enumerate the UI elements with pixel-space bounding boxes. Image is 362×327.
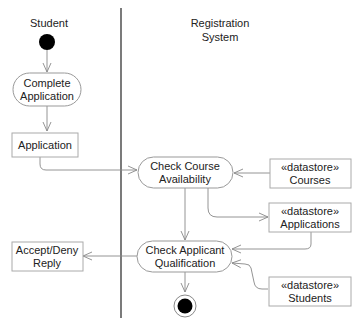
svg-text:Application: Application xyxy=(20,90,74,102)
svg-text:Complete: Complete xyxy=(23,77,70,89)
initial-node xyxy=(39,34,55,50)
svg-text:Qualification: Qualification xyxy=(155,257,216,269)
edge-students-to-check-applicant xyxy=(232,263,268,289)
svg-text:Students: Students xyxy=(288,292,332,304)
svg-text:Check Applicant: Check Applicant xyxy=(146,244,225,256)
svg-text:«datastore»: «datastore» xyxy=(281,205,339,217)
svg-text:Accept/Deny: Accept/Deny xyxy=(16,244,79,256)
svg-text:Check Course: Check Course xyxy=(150,160,220,172)
svg-text:Applications: Applications xyxy=(280,218,340,230)
lane-label-registration: Registration xyxy=(191,17,250,29)
action-check-course-availability: Check Course Availability xyxy=(138,157,233,188)
svg-text:Availability: Availability xyxy=(159,173,211,185)
svg-text:Application: Application xyxy=(18,139,72,151)
object-accept-deny-reply: Accept/Deny Reply xyxy=(12,242,83,271)
object-application: Application xyxy=(12,133,78,157)
svg-text:Courses: Courses xyxy=(290,174,331,186)
svg-text:«datastore»: «datastore» xyxy=(281,279,339,291)
activity-final-node xyxy=(174,295,196,317)
svg-text:Reply: Reply xyxy=(33,257,62,269)
svg-text:«datastore»: «datastore» xyxy=(281,161,339,173)
lane-label-student: Student xyxy=(30,17,68,29)
datastore-courses: «datastore» Courses xyxy=(270,159,351,188)
edge-application-to-check-course xyxy=(40,157,137,170)
action-complete-application: Complete Application xyxy=(13,73,81,106)
datastore-applications: «datastore» Applications xyxy=(269,203,351,232)
activity-diagram: Student Registration System Complete App… xyxy=(0,0,362,327)
action-check-applicant-qualification: Check Applicant Qualification xyxy=(137,241,232,272)
edge-applications-to-check-applicant xyxy=(232,232,311,249)
lane-label-registration-2: System xyxy=(202,31,239,43)
datastore-students: «datastore» Students xyxy=(269,277,351,306)
edge-check-course-to-applications xyxy=(208,188,268,217)
